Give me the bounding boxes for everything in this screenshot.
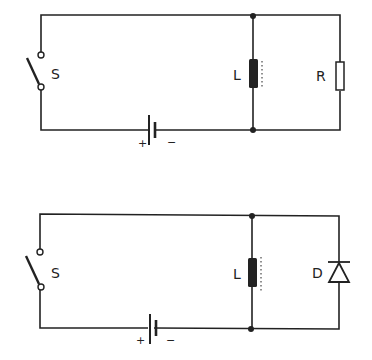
- resistor-body: [336, 62, 344, 90]
- inductor-core: [249, 59, 258, 88]
- switch: S: [26, 249, 60, 290]
- switch-contact: [38, 84, 44, 90]
- inductor-label: L: [233, 67, 241, 83]
- bottom-wire-upper: [40, 214, 339, 262]
- switch-contact: [38, 52, 44, 58]
- battery: + −: [138, 115, 176, 150]
- bottom-wire-lower-left: [40, 290, 148, 328]
- top-wire-upper: [41, 15, 340, 62]
- battery: + −: [136, 314, 175, 347]
- switch-blade: [26, 256, 39, 284]
- diode-triangle: [329, 263, 349, 282]
- top-wire-lower-right: [154, 91, 340, 130]
- junction-dot: [250, 13, 256, 19]
- battery-plus: +: [136, 334, 145, 347]
- battery-minus: −: [166, 334, 175, 347]
- switch-label: S: [51, 265, 60, 281]
- resistor-label: R: [316, 68, 326, 84]
- junction-dot: [248, 326, 254, 332]
- resistor: R: [316, 62, 344, 90]
- circuit-bottom: S + − L D: [26, 213, 350, 347]
- switch-contact: [38, 284, 44, 290]
- battery-plus: +: [138, 137, 147, 150]
- circuit-diagrams: S + − L R: [0, 0, 372, 360]
- circuit-top: S + − L R: [27, 13, 344, 150]
- inductor: L: [233, 257, 261, 291]
- switch-blade: [27, 58, 39, 84]
- switch-contact: [37, 249, 43, 255]
- diode-label: D: [312, 265, 323, 281]
- switch-label: S: [51, 66, 60, 82]
- junction-dot: [250, 127, 256, 133]
- bottom-wire-lower-right: [154, 282, 339, 329]
- switch: S: [27, 52, 60, 90]
- battery-minus: −: [167, 136, 176, 149]
- inductor-label: L: [233, 266, 241, 282]
- junction-dot: [249, 213, 255, 219]
- inductor-core: [248, 258, 257, 287]
- top-wire-lower-left: [41, 90, 148, 130]
- diode: D: [312, 262, 350, 282]
- inductor: L: [233, 59, 262, 89]
